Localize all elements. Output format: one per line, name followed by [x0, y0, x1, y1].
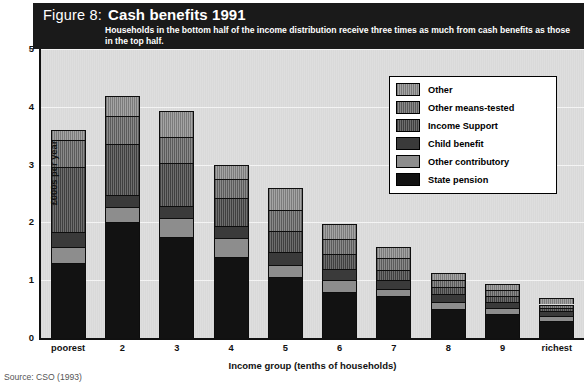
y-tick-label: 4 [0, 101, 34, 112]
legend-item-label: Child benefit [428, 139, 484, 149]
bar-segment-state-pension [431, 309, 466, 338]
bar-segment-other [485, 284, 520, 290]
figure-number: Figure 8: [43, 7, 102, 23]
y-axis-label: £000s per year [49, 113, 59, 233]
bar-segment-child-benefit [159, 206, 194, 218]
bar-segment-other-means-tested [431, 280, 466, 287]
bar-4 [214, 165, 249, 338]
y-tick-label: 5 [0, 43, 34, 54]
legend-item-label: Other [428, 85, 453, 95]
bar-segment-state-pension [268, 277, 303, 338]
y-tick-label: 2 [0, 216, 34, 227]
bar-segment-state-pension [376, 296, 411, 338]
bar-segment-income-support [539, 308, 574, 311]
legend-item-state-pension[interactable]: State pension [396, 172, 550, 187]
bar-segment-child-benefit [322, 269, 357, 281]
bar-segment-other-contributory [376, 289, 411, 297]
gridline [41, 49, 584, 50]
bar-segment-other-contributory [159, 218, 194, 237]
bar-segment-other [268, 188, 303, 211]
legend-item-other-means-tested[interactable]: Other means-tested [396, 100, 550, 115]
legend-item-child-benefit[interactable]: Child benefit [396, 136, 550, 151]
bar-segment-income-support [431, 287, 466, 294]
bar-segment-other-means-tested [485, 290, 520, 296]
bar-segment-state-pension [322, 292, 357, 338]
legend-item-other-contributory[interactable]: Other contributory [396, 154, 550, 169]
y-tick-label: 3 [0, 159, 34, 170]
bar-segment-income-support [214, 198, 249, 226]
bar-segment-state-pension [159, 237, 194, 338]
figure-container: Figure 8:Cash benefits 1991 Households i… [0, 0, 588, 388]
bar-segment-other-contributory [214, 238, 249, 257]
bar-segment-other [431, 273, 466, 280]
bar-segment-state-pension [51, 263, 86, 338]
legend-item-label: Other contributory [428, 157, 509, 167]
legend-item-label: Income Support [428, 121, 498, 131]
bar-segment-other [539, 298, 574, 305]
bar-7 [376, 247, 411, 338]
source-note: Source: CSO (1993) [4, 372, 82, 382]
bar-segment-income-support [485, 296, 520, 302]
bar-segment-child-benefit [268, 252, 303, 265]
bar-9 [485, 284, 520, 338]
legend-swatch-icon [396, 173, 420, 186]
bar-segment-child-benefit [431, 294, 466, 302]
x-axis-label: Income group (tenths of households) [41, 360, 584, 371]
y-tick-label: 1 [0, 274, 34, 285]
legend-item-other[interactable]: Other [396, 82, 550, 97]
bar-segment-child-benefit [485, 302, 520, 308]
bar-segment-child-benefit [539, 311, 574, 316]
bar-3 [159, 111, 194, 338]
bar-segment-state-pension [485, 314, 520, 338]
bar-segment-income-support [322, 254, 357, 268]
bar-6 [322, 224, 357, 338]
y-axis-line [39, 49, 41, 339]
bar-segment-child-benefit [51, 232, 86, 247]
bar-segment-other-contributory [105, 207, 140, 222]
y-tick-label: 0 [0, 332, 34, 343]
bar-segment-other-means-tested [105, 116, 140, 144]
bar-segment-other [159, 111, 194, 137]
bar-segment-other-means-tested [539, 305, 574, 308]
bar-segment-other-contributory [539, 316, 574, 321]
bar-5 [268, 188, 303, 338]
bar-richest [539, 298, 574, 338]
legend-swatch-icon [396, 101, 420, 114]
chart-legend: OtherOther means-testedIncome SupportChi… [389, 76, 557, 194]
bar-segment-other [376, 247, 411, 259]
bar-segment-child-benefit [105, 195, 140, 208]
bar-segment-child-benefit [214, 226, 249, 238]
x-tick-label: richest [517, 343, 588, 353]
bar-segment-other-means-tested [214, 179, 249, 198]
legend-item-label: State pension [428, 175, 488, 185]
legend-swatch-icon [396, 155, 420, 168]
figure-header: Figure 8:Cash benefits 1991 Households i… [33, 3, 584, 49]
figure-subtitle: Households in the bottom half of the inc… [105, 25, 575, 46]
bar-segment-other-means-tested [322, 239, 357, 254]
bar-segment-state-pension [214, 257, 249, 338]
bar-segment-other-means-tested [268, 210, 303, 231]
bar-2 [105, 96, 140, 338]
bar-segment-state-pension [539, 321, 574, 338]
bar-segment-other-contributory [485, 308, 520, 314]
bar-segment-other [214, 165, 249, 179]
bar-segment-other-contributory [51, 247, 86, 263]
bar-segment-other [105, 96, 140, 116]
bar-segment-other-contributory [322, 280, 357, 292]
legend-item-income-support[interactable]: Income Support [396, 118, 550, 133]
bar-segment-income-support [159, 163, 194, 205]
bar-segment-state-pension [105, 222, 140, 338]
legend-swatch-icon [396, 119, 420, 132]
legend-swatch-icon [396, 83, 420, 96]
bar-segment-income-support [105, 144, 140, 195]
bar-segment-other-contributory [268, 265, 303, 278]
x-axis-line [39, 338, 584, 340]
bar-segment-other [322, 224, 357, 240]
bar-segment-income-support [376, 270, 411, 280]
bar-segment-other-means-tested [159, 137, 194, 163]
page-title: Cash benefits 1991 [108, 6, 246, 23]
bar-8 [431, 273, 466, 338]
bar-segment-other-means-tested [376, 258, 411, 270]
bar-segment-other-contributory [431, 302, 466, 309]
legend-item-label: Other means-tested [428, 103, 514, 113]
